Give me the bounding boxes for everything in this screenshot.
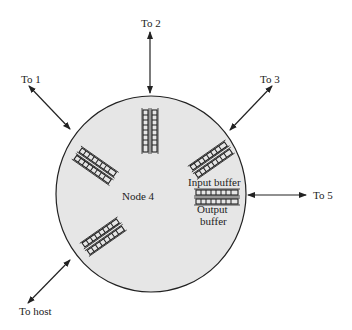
host-label: To host	[19, 305, 52, 317]
node-label: Node 4	[122, 190, 155, 202]
to5-label: To 5	[313, 189, 333, 201]
output-buffer-label: Output	[197, 203, 228, 215]
link-arrow-to1	[29, 86, 70, 129]
to2-label: To 2	[141, 17, 161, 29]
link-arrow-to3	[230, 86, 272, 130]
to1-label: To 1	[21, 73, 41, 85]
input-buffer-label: Input buffer	[188, 176, 241, 188]
node-diagram: Node 4 Input buffer Output buffer To 2 T…	[0, 0, 352, 330]
output-buffer-label-2: buffer	[200, 215, 227, 227]
link-arrow-host	[28, 260, 70, 303]
to3-label: To 3	[260, 73, 280, 85]
